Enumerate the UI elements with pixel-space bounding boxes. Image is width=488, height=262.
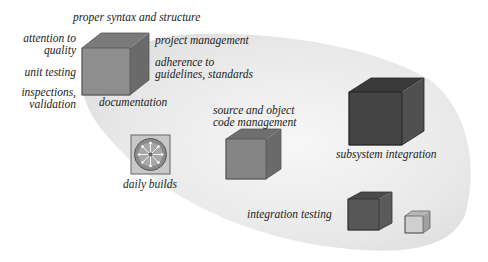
label-documentation: documentation bbox=[99, 96, 167, 108]
label-inspections: inspections, validation bbox=[0, 86, 76, 110]
label-adherence: adherence to guidelines, standards bbox=[155, 56, 253, 80]
label-project-management: project management bbox=[155, 34, 249, 46]
cube-source-code bbox=[226, 129, 281, 179]
label-attention-line1: attention to bbox=[0, 32, 76, 44]
label-attention-quality: attention to quality bbox=[0, 32, 76, 56]
label-daily-builds: daily builds bbox=[123, 178, 177, 190]
label-subsystem-integration: subsystem integration bbox=[336, 148, 437, 160]
cube-small-light bbox=[405, 211, 430, 233]
label-source-line1: source and object bbox=[213, 104, 296, 116]
label-attention-line2: quality bbox=[0, 44, 76, 56]
label-proper-syntax: proper syntax and structure bbox=[73, 11, 200, 23]
label-inspections-line2: validation bbox=[0, 98, 76, 110]
label-adherence-line2: guidelines, standards bbox=[155, 68, 253, 80]
cube-subsystem-integration bbox=[349, 78, 424, 145]
label-unit-testing: unit testing bbox=[0, 66, 76, 78]
cube-integration-testing bbox=[348, 192, 392, 230]
diagram-stage: proper syntax and structure attention to… bbox=[0, 0, 488, 262]
label-adherence-line1: adherence to bbox=[155, 56, 253, 68]
cube-code-quality bbox=[82, 33, 149, 95]
label-source-code: source and object code management bbox=[213, 104, 296, 128]
label-source-line2: code management bbox=[213, 116, 296, 128]
label-inspections-line1: inspections, bbox=[0, 86, 76, 98]
label-integration-testing: integration testing bbox=[247, 208, 332, 220]
daily-builds-icon bbox=[131, 135, 170, 174]
